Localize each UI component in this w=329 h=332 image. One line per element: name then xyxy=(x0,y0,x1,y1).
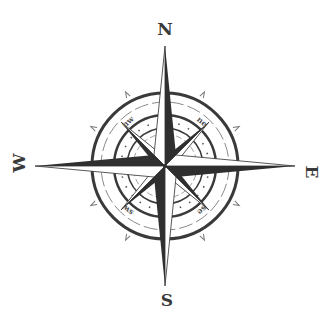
label-north: N xyxy=(157,19,173,39)
compass-rose: nw ne se sw N S E W xyxy=(0,0,329,332)
label-south: S xyxy=(161,290,173,310)
label-west: W xyxy=(9,153,29,174)
label-east: E xyxy=(302,166,322,179)
